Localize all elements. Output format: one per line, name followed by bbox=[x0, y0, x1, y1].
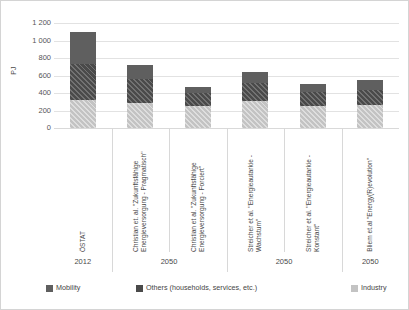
category-label: Streicher et al. "Energieautarkie - Wach… bbox=[247, 130, 263, 252]
bar-segment-others[interactable] bbox=[242, 83, 268, 101]
year-separator bbox=[112, 252, 113, 272]
bar-segment-industry[interactable] bbox=[300, 106, 326, 128]
y-axis-tick-label: 1 200 bbox=[19, 19, 51, 27]
category-separator bbox=[342, 128, 343, 252]
bar-slot bbox=[227, 23, 285, 128]
bar-stack[interactable] bbox=[127, 65, 153, 128]
bar-stack[interactable] bbox=[242, 72, 268, 128]
legend-swatch-icon bbox=[351, 285, 358, 292]
bar-slot bbox=[112, 23, 170, 128]
y-axis-tick-label: 800 bbox=[19, 54, 51, 62]
category-label-band: ÖSTATChristian et. al. "Zukunftsfähige E… bbox=[54, 128, 399, 252]
category-label-cell: Bliem et.al "Energy(R)evolution" bbox=[342, 128, 400, 252]
bars-layer bbox=[54, 23, 399, 128]
legend-item[interactable]: Industry bbox=[351, 284, 387, 292]
category-separator bbox=[169, 128, 170, 252]
bar-segment-others[interactable] bbox=[300, 92, 326, 106]
bar-stack[interactable] bbox=[185, 87, 211, 128]
bar-segment-industry[interactable] bbox=[185, 106, 211, 128]
bar-slot bbox=[54, 23, 112, 128]
category-label: Bliem et.al "Energy(R)evolution" bbox=[366, 158, 374, 252]
bar-segment-others[interactable] bbox=[185, 93, 211, 106]
legend-swatch-icon bbox=[136, 285, 143, 292]
bar-slot bbox=[284, 23, 342, 128]
year-separator bbox=[227, 252, 228, 272]
y-axis-tick-labels: 02004006008001 0001 200 bbox=[19, 23, 51, 128]
year-label-band: 2012205020502050 bbox=[54, 252, 399, 272]
chart-legend: MobilityOthers (households, services, et… bbox=[41, 284, 391, 298]
category-separator bbox=[112, 128, 113, 252]
plot-area bbox=[54, 23, 399, 128]
legend-item[interactable]: Others (households, services, etc.) bbox=[136, 284, 257, 292]
category-label: ÖSTAT bbox=[79, 231, 87, 252]
year-label: 2050 bbox=[227, 257, 342, 266]
category-label-cell: Christian et al. "Zukunftsfähige Energie… bbox=[169, 128, 227, 252]
category-label: Christian et al. "Zukunftsfähige Energie… bbox=[190, 130, 206, 252]
y-axis-tick-label: 0 bbox=[19, 124, 51, 132]
bar-stack[interactable] bbox=[357, 80, 383, 128]
y-axis-tick-label: 200 bbox=[19, 107, 51, 115]
bar-stack[interactable] bbox=[300, 84, 326, 128]
legend-item[interactable]: Mobility bbox=[46, 284, 80, 292]
year-separator bbox=[342, 252, 343, 272]
legend-label: Mobility bbox=[56, 284, 80, 292]
bar-stack[interactable] bbox=[70, 32, 96, 128]
category-label: Streicher et al. "Energieautarkie - Kons… bbox=[305, 130, 321, 252]
bar-segment-others[interactable] bbox=[70, 64, 96, 100]
bar-segment-industry[interactable] bbox=[357, 105, 383, 128]
legend-label: Others (households, services, etc.) bbox=[146, 284, 257, 292]
bar-segment-mobility[interactable] bbox=[70, 32, 96, 64]
bar-segment-others[interactable] bbox=[127, 79, 153, 103]
category-label-cell: ÖSTAT bbox=[54, 128, 112, 252]
y-axis-tick-label: 600 bbox=[19, 72, 51, 80]
bar-segment-mobility[interactable] bbox=[300, 84, 326, 92]
bar-segment-industry[interactable] bbox=[70, 100, 96, 128]
legend-label: Industry bbox=[361, 284, 387, 292]
bar-segment-mobility[interactable] bbox=[127, 65, 153, 79]
year-label: 2050 bbox=[112, 257, 227, 266]
category-separator bbox=[227, 128, 228, 252]
category-label-cell: Christian et. al. "Zukunftsfähige Energi… bbox=[112, 128, 170, 252]
y-axis-tick-label: 1 000 bbox=[19, 37, 51, 45]
bar-segment-mobility[interactable] bbox=[242, 72, 268, 83]
bar-segment-mobility[interactable] bbox=[357, 80, 383, 90]
y-axis-title: PJ bbox=[10, 64, 17, 78]
year-label: 2050 bbox=[342, 257, 400, 266]
y-axis-tick-label: 400 bbox=[19, 89, 51, 97]
category-label-cell: Streicher et al. "Energieautarkie - Wach… bbox=[227, 128, 285, 252]
bar-segment-others[interactable] bbox=[357, 90, 383, 105]
bar-segment-industry[interactable] bbox=[127, 103, 153, 128]
category-label: Christian et. al. "Zukunftsfähige Energi… bbox=[132, 130, 148, 252]
category-separator bbox=[284, 128, 285, 252]
legend-swatch-icon bbox=[46, 285, 53, 292]
year-label: 2012 bbox=[54, 257, 112, 266]
bar-segment-industry[interactable] bbox=[242, 101, 268, 128]
bar-slot bbox=[342, 23, 400, 128]
bar-slot bbox=[169, 23, 227, 128]
stacked-bar-chart: PJ 02004006008001 0001 200 ÖSTATChristia… bbox=[0, 0, 409, 310]
category-label-cell: Streicher et al. "Energieautarkie - Kons… bbox=[284, 128, 342, 252]
